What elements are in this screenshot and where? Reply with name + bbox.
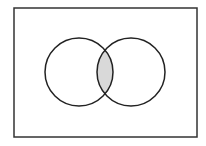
venn-diagram <box>0 0 206 146</box>
